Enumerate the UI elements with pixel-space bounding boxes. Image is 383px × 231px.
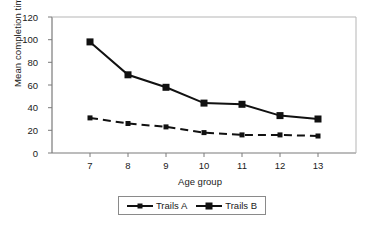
series-trails-b-markers [87,38,322,122]
legend-label-trails-b: Trails B [225,201,257,211]
series-trails-b-line [90,42,318,119]
legend-label-trails-a: Trails A [156,201,187,211]
legend-swatch-solid-line-icon [196,201,222,211]
x-axis-label: Age group [100,176,300,187]
chart-figure: Mean completion time 120 100 80 60 40 20… [0,0,383,231]
legend-swatch-dashed-line-icon [127,201,153,211]
legend-item-trails-a[interactable]: Trails A [127,201,187,211]
legend: Trails A Trails B [118,196,266,215]
legend-item-trails-b[interactable]: Trails B [196,201,257,211]
x-axis-tick-marks [90,153,318,157]
